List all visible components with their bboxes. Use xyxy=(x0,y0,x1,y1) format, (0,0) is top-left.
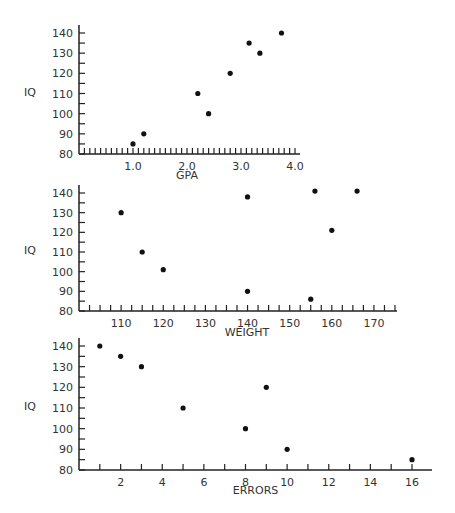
data-point xyxy=(140,249,145,254)
y-axis-label: IQ xyxy=(24,86,36,99)
data-point xyxy=(279,30,284,35)
x-tick-label: 160 xyxy=(321,317,342,330)
x-tick-label: 120 xyxy=(153,317,174,330)
data-point xyxy=(329,228,334,233)
x-tick-label: 110 xyxy=(111,317,132,330)
x-tick-label: 10 xyxy=(280,476,294,489)
y-tick-label: 110 xyxy=(52,402,73,415)
data-point xyxy=(308,297,313,302)
x-tick-label: 1.0 xyxy=(124,160,142,173)
x-tick-label: 2 xyxy=(117,476,124,489)
data-point xyxy=(130,141,135,146)
data-point xyxy=(228,71,233,76)
x-tick-label: 14 xyxy=(363,476,377,489)
data-point xyxy=(180,405,185,410)
data-point xyxy=(312,188,317,193)
data-point xyxy=(257,51,262,56)
x-tick-label: 150 xyxy=(279,317,300,330)
data-point xyxy=(195,91,200,96)
y-tick-label: 130 xyxy=(52,207,73,220)
data-point xyxy=(161,267,166,272)
data-point xyxy=(245,289,250,294)
x-tick-label: 130 xyxy=(195,317,216,330)
y-tick-label: 120 xyxy=(52,226,73,239)
data-point xyxy=(119,210,124,215)
y-tick-label: 110 xyxy=(52,88,73,101)
y-tick-label: 80 xyxy=(59,305,73,318)
y-axis-label: IQ xyxy=(24,400,36,413)
y-tick-label: 130 xyxy=(52,47,73,60)
y-tick-label: 90 xyxy=(59,443,73,456)
data-point xyxy=(141,131,146,136)
x-tick-label: 16 xyxy=(405,476,419,489)
data-point xyxy=(247,40,252,45)
data-point xyxy=(97,343,102,348)
x-tick-label: 12 xyxy=(322,476,336,489)
x-axis-label: GPA xyxy=(176,169,198,182)
y-tick-label: 100 xyxy=(52,108,73,121)
data-point xyxy=(409,457,414,462)
x-tick-label: 4.0 xyxy=(286,160,304,173)
y-tick-label: 130 xyxy=(52,361,73,374)
scatter-plots: 80901001101201301401.02.03.04.0IQGPA8090… xyxy=(0,0,455,513)
y-tick-label: 100 xyxy=(52,423,73,436)
y-tick-label: 80 xyxy=(59,464,73,477)
y-tick-label: 100 xyxy=(52,266,73,279)
y-tick-label: 120 xyxy=(52,381,73,394)
data-point xyxy=(245,194,250,199)
data-point xyxy=(206,111,211,116)
data-point xyxy=(264,385,269,390)
y-tick-label: 140 xyxy=(52,27,73,40)
x-tick-label: 6 xyxy=(200,476,207,489)
y-tick-label: 90 xyxy=(59,128,73,141)
data-point xyxy=(139,364,144,369)
x-tick-label: 3.0 xyxy=(232,160,250,173)
x-tick-label: 4 xyxy=(159,476,166,489)
x-tick-label: 170 xyxy=(363,317,384,330)
x-axis-label: ERRORS xyxy=(233,484,279,497)
x-axis-label: WEIGHT xyxy=(225,326,270,339)
y-tick-label: 80 xyxy=(59,148,73,161)
y-axis-label: IQ xyxy=(24,244,36,257)
data-point xyxy=(243,426,248,431)
y-tick-label: 90 xyxy=(59,285,73,298)
data-point xyxy=(285,447,290,452)
y-tick-label: 140 xyxy=(52,187,73,200)
y-tick-label: 120 xyxy=(52,67,73,80)
data-point xyxy=(118,354,123,359)
y-tick-label: 140 xyxy=(52,340,73,353)
data-point xyxy=(354,188,359,193)
y-tick-label: 110 xyxy=(52,246,73,259)
